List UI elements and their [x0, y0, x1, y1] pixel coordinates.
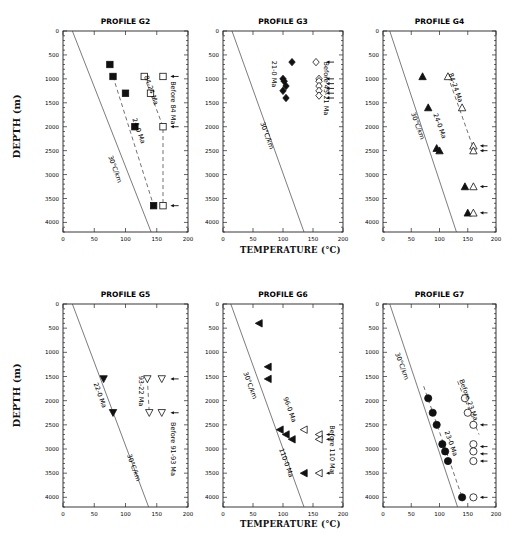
annotation-label: 24-0 Ma — [130, 117, 147, 145]
y-tick-label: 3500 — [205, 196, 219, 202]
y-tick-label: 4000 — [205, 494, 219, 500]
filled-diamond-marker — [283, 94, 289, 101]
x-tick-label: 200 — [491, 511, 502, 517]
panel-title: PROFILE G2 — [101, 17, 150, 26]
open-triangle-up-marker — [470, 209, 477, 216]
y-tick-label: 3000 — [365, 446, 379, 452]
y-tick-label: 2000 — [365, 124, 379, 130]
filled-circle-marker — [433, 421, 440, 428]
x-axis-label-bottom: TEMPERATURE (°C) — [240, 519, 341, 529]
open-square-marker — [160, 73, 166, 79]
filled-triangle-down-marker — [109, 410, 116, 417]
open-circle-marker — [470, 421, 477, 428]
annotation-label: 24-0 Ma — [431, 112, 448, 140]
y-tick-label: 2500 — [45, 148, 59, 154]
y-tick-label: 1000 — [45, 349, 59, 355]
x-tick-label: 200 — [491, 236, 502, 242]
filled-triangle-down-marker — [100, 376, 107, 383]
open-circle-marker — [470, 494, 477, 501]
y-tick-label: 2500 — [205, 148, 219, 154]
y-axis-label-top: DEPTH (m) — [11, 99, 22, 159]
y-tick-label: 500 — [209, 325, 220, 331]
filled-circle-marker — [429, 409, 436, 416]
annotation-label: 30°C/km — [393, 351, 410, 380]
open-square-marker — [160, 202, 166, 208]
x-tick-label: 150 — [152, 511, 163, 517]
y-tick-label: 2000 — [365, 398, 379, 404]
x-tick-label: 150 — [152, 236, 163, 242]
open-circle-marker — [470, 441, 477, 448]
x-tick-label: 150 — [463, 236, 474, 242]
x-tick-label: 200 — [338, 511, 349, 517]
y-tick-label: 0 — [56, 301, 60, 307]
y-tick-label: 500 — [209, 52, 220, 58]
x-tick-label: 100 — [434, 511, 445, 517]
x-tick-label: 50 — [250, 236, 257, 242]
y-tick-label: 4000 — [365, 494, 379, 500]
panel-title: PROFILE G6 — [258, 290, 307, 299]
x-tick-label: 100 — [278, 236, 289, 242]
plot-frame — [223, 304, 343, 507]
y-tick-label: 3000 — [205, 172, 219, 178]
y-tick-label: 0 — [376, 28, 380, 34]
x-tick-label: 100 — [434, 236, 445, 242]
panel-title: PROFILE G5 — [101, 290, 150, 299]
annotation-label: 110-0 Ma — [277, 447, 295, 478]
annotation-label: Before 45-21 Ma — [322, 61, 330, 115]
y-tick-label: 3000 — [365, 172, 379, 178]
annotation-label: 30°C/km — [409, 111, 426, 140]
open-circle-marker — [470, 457, 477, 464]
y-tick-label: 500 — [369, 325, 380, 331]
y-tick-label: 4000 — [205, 219, 219, 225]
y-tick-label: 3000 — [45, 172, 59, 178]
annotation-label: 30°C/km — [125, 453, 142, 482]
annotation-label: 84-24 Ma — [142, 74, 160, 105]
filled-triangle-up-marker — [461, 183, 468, 190]
annotation-label: 84-24 Ma — [447, 72, 465, 103]
y-tick-label: 1000 — [365, 76, 379, 82]
y-axis-label-bottom: DEPTH (m) — [11, 368, 22, 428]
open-circle-marker — [470, 448, 477, 455]
geotherm-30c-line — [390, 304, 458, 507]
filled-triangle-left-marker — [255, 320, 262, 327]
filled-square-marker — [110, 73, 116, 79]
annotation-label: 21-0 Ma — [270, 61, 278, 87]
y-tick-label: 1000 — [205, 76, 219, 82]
panel-3: PROFILE G4050010001500200025003000350040… — [365, 17, 502, 242]
x-tick-label: 100 — [120, 236, 131, 242]
filled-triangle-left-marker — [300, 469, 307, 476]
filled-diamond-marker — [289, 58, 295, 65]
x-tick-label: 50 — [250, 511, 257, 517]
filled-circle-marker — [442, 448, 449, 455]
x-tick-label: 150 — [308, 236, 319, 242]
annotation-label: Before 91-93 Ma — [169, 422, 177, 476]
y-tick-label: 1000 — [45, 76, 59, 82]
annotation-label: Before 110 Ma — [328, 425, 336, 472]
open-triangle-down-marker — [146, 410, 153, 417]
open-triangle-down-marker — [158, 376, 165, 383]
y-tick-label: 0 — [216, 301, 220, 307]
annotation-label: 93-22 Ma — [137, 376, 145, 407]
y-tick-label: 3000 — [205, 446, 219, 452]
y-tick-label: 1000 — [365, 349, 379, 355]
y-tick-label: 2500 — [45, 422, 59, 428]
panel-title: PROFILE G3 — [258, 17, 307, 26]
y-tick-label: 2000 — [205, 124, 219, 130]
y-tick-label: 1500 — [45, 100, 59, 106]
y-tick-label: 4000 — [45, 494, 59, 500]
annotation-label: 96-0 Ma — [281, 396, 298, 424]
y-tick-label: 500 — [49, 52, 60, 58]
panel-title: PROFILE G7 — [415, 290, 464, 299]
y-tick-label: 1500 — [205, 100, 219, 106]
filled-circle-marker — [444, 457, 451, 464]
y-tick-label: 2000 — [45, 398, 59, 404]
filled-triangle-left-marker — [264, 363, 271, 370]
x-tick-label: 0 — [381, 236, 385, 242]
annotation-label: 30°C/km — [258, 121, 275, 150]
panel-title: PROFILE G4 — [415, 17, 464, 26]
x-tick-label: 150 — [308, 511, 319, 517]
filled-circle-marker — [459, 494, 466, 501]
annotation-label: 30°C/km — [106, 154, 123, 183]
y-tick-label: 1500 — [365, 374, 379, 380]
y-tick-label: 1500 — [45, 374, 59, 380]
